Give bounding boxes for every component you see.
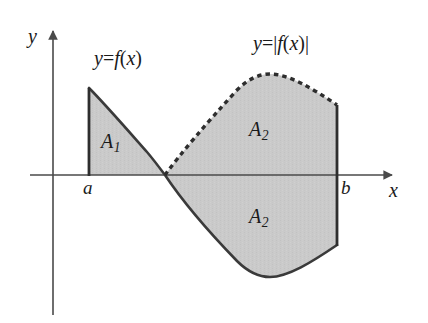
area-a2-lower-base: A [249, 205, 261, 227]
eq-absf-equals: = [262, 32, 273, 54]
plot-canvas [0, 0, 428, 323]
lower-bound-label: a [83, 178, 93, 197]
eq-f-lhs: y [94, 47, 103, 69]
upper-bound-label: b [341, 178, 351, 197]
area-a2-lower-subscript: 2 [261, 215, 268, 230]
area-a1-subscript: 1 [113, 140, 120, 155]
eq-absf-paren-close: ) [298, 32, 305, 54]
area-a1-base: A [101, 130, 113, 152]
equation-f-of-x: y=f(x) [94, 48, 142, 68]
calculus-area-figure: y x a b y=f(x) y=|f(x)| A1 A2 A2 [0, 0, 428, 323]
eq-f-paren-close: ) [135, 47, 142, 69]
eq-f-arg: x [126, 47, 135, 69]
equation-abs-f-of-x: y=|f(x)| [253, 33, 309, 53]
area-label-a2-lower: A2 [249, 206, 269, 229]
area-a2-upper-base: A [249, 118, 261, 140]
y-axis-label: y [28, 26, 37, 46]
eq-absf-lhs: y [253, 32, 262, 54]
eq-f-equals: = [103, 47, 114, 69]
area-a2-upper-subscript: 2 [261, 128, 268, 143]
area-label-a2-upper: A2 [249, 119, 269, 142]
x-axis-label: x [389, 180, 398, 200]
eq-absf-arg: x [289, 32, 298, 54]
area-label-a1: A1 [101, 131, 121, 154]
eq-absf-bar-close: | [305, 32, 309, 54]
